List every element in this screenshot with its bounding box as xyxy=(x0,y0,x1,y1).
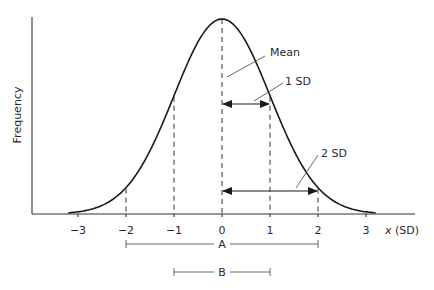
x-tick-label: −3 xyxy=(70,224,86,237)
range-A-label: A xyxy=(218,238,226,251)
x-tick-label: −2 xyxy=(118,224,134,237)
normal-distribution-diagram: Frequency x (SD) −3−2−10123 Mean1 SD2 SD… xyxy=(0,0,434,290)
x-axis-label: x (SD) xyxy=(384,224,419,237)
mean-label: Mean xyxy=(270,46,300,59)
x-tick-label: 0 xyxy=(219,224,226,237)
y-axis-label: Frequency xyxy=(11,86,24,143)
mean-leader-line xyxy=(227,56,265,77)
sd1-leader-line xyxy=(254,83,283,101)
range-B-label: B xyxy=(218,266,226,279)
x-tick-label: 2 xyxy=(315,224,322,237)
x-tick-label: 3 xyxy=(363,224,370,237)
x-tick-label: 1 xyxy=(267,224,274,237)
x-tick-label: −1 xyxy=(166,224,182,237)
sd1-label: 1 SD xyxy=(285,75,311,88)
sd2-label: 2 SD xyxy=(321,147,347,160)
